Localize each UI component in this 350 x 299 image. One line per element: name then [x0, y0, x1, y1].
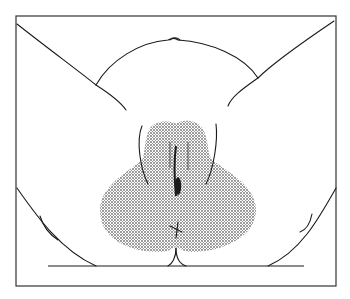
anatomical-figure — [0, 0, 350, 299]
figure-svg — [0, 0, 350, 299]
